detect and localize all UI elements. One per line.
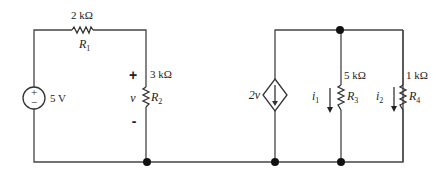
arrow-head-icon (272, 101, 278, 106)
r2-label: R2 (150, 90, 162, 106)
node-dot (337, 158, 345, 166)
voltage-source-minus: − (31, 96, 37, 108)
circuit-diagram: + − 5 V 2 kΩ R1 3 kΩ R2 + v - 2v 5 kΩ R3… (0, 0, 448, 177)
dependent-source-value: 2v (249, 88, 261, 102)
i1-label: i1 (312, 89, 319, 105)
current-i2: i2 (376, 87, 397, 112)
r4-label: R4 (408, 89, 420, 105)
voltage-source-value: 5 V (50, 92, 66, 104)
right-network-wires (275, 30, 403, 162)
node-dot (271, 158, 279, 166)
voltage-source: + − 5 V (23, 86, 66, 109)
node-dot (336, 26, 344, 34)
r1-value: 2 kΩ (71, 9, 93, 21)
resistor-r2: 3 kΩ R2 (143, 68, 172, 107)
resistor-r4: 1 kΩ R4 (400, 69, 428, 110)
resistor-r3: 5 kΩ R3 (338, 69, 366, 110)
voltage-v-label: + v - (129, 67, 137, 129)
v-plus: + (129, 67, 137, 83)
resistor-r1: 2 kΩ R1 (71, 9, 93, 53)
i2-label: i2 (376, 89, 383, 105)
node-dot (143, 158, 151, 166)
r2-value: 3 kΩ (150, 68, 172, 80)
r3-label: R3 (346, 89, 358, 105)
r1-label: R1 (78, 37, 90, 53)
r3-value: 5 kΩ (344, 69, 366, 81)
resistor-icon (338, 85, 344, 110)
arrow-head-icon (327, 107, 333, 113)
dependent-current-source: 2v (249, 79, 287, 111)
v-minus: - (132, 113, 137, 129)
v-var: v (130, 91, 136, 105)
resistor-icon (143, 87, 149, 107)
resistor-icon (72, 27, 93, 33)
arrow-head-icon (391, 106, 397, 112)
r4-value: 1 kΩ (406, 69, 428, 81)
current-i1: i1 (312, 88, 333, 113)
